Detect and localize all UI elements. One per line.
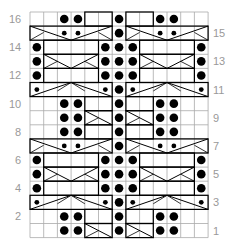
row-number-15: 15 [213, 27, 225, 39]
row-number-6: 6 [15, 154, 21, 166]
row-number-9: 9 [213, 112, 219, 124]
row-number-14: 14 [9, 41, 21, 53]
row-number-12: 12 [9, 69, 21, 81]
row-number-4: 4 [15, 182, 21, 194]
row-number-8: 8 [15, 126, 21, 138]
row-number-11: 11 [213, 84, 224, 96]
row-number-7: 7 [213, 140, 219, 152]
row-number-2: 2 [15, 210, 21, 222]
row-number-16: 16 [9, 13, 21, 25]
row-number-1: 1 [213, 225, 219, 237]
row-number-5: 5 [213, 168, 219, 180]
row-number-10: 10 [9, 98, 21, 110]
row-number-13: 13 [213, 55, 225, 67]
row-number-3: 3 [213, 196, 219, 208]
knitting-chart [0, 0, 231, 250]
